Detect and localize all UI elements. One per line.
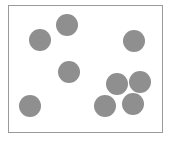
circle-1 bbox=[56, 14, 78, 36]
circle-9 bbox=[122, 93, 144, 115]
circle-2 bbox=[29, 29, 51, 51]
circle-7 bbox=[19, 95, 41, 117]
circle-3 bbox=[123, 30, 145, 52]
circle-4 bbox=[58, 61, 80, 83]
circle-8 bbox=[94, 95, 116, 117]
circle-5 bbox=[106, 73, 128, 95]
circles-canvas bbox=[0, 0, 170, 141]
circle-6 bbox=[129, 71, 151, 93]
